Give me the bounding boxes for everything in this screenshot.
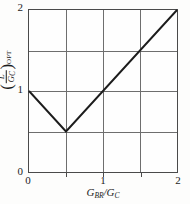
chart-figure: 0 1 2 2 1 0 GBR/GC (LGC)OPT [0, 0, 190, 204]
x-axis-label-sub2: C [115, 191, 120, 200]
xtick-mark-0.5 [66, 173, 67, 177]
x-axis-label: GBR/GC [28, 186, 178, 200]
plot-area [28, 9, 178, 173]
y-axis-label-outer-sub: OPT [5, 51, 13, 64]
y-axis-label: (LGC)OPT [0, 39, 17, 101]
x-axis-label-sub1: BR [94, 191, 103, 200]
xticklabel-1: 1 [93, 174, 113, 186]
xticklabel-2: 2 [168, 174, 188, 186]
y-axis-label-open-paren: ( [0, 84, 16, 90]
y-axis-label-denominator-sub: C [9, 71, 18, 76]
yticklabel-0: 0 [3, 165, 23, 177]
y-axis-label-close-paren: ) [0, 64, 16, 70]
y-axis-label-denominator: GC [7, 70, 17, 84]
data-curve [29, 10, 177, 172]
x-axis-label-symbol2: G [107, 186, 115, 198]
y-axis-label-fraction: LGC [0, 70, 17, 84]
xtick-mark-1.5 [141, 173, 142, 177]
yticklabel-2: 2 [3, 1, 23, 13]
y-axis-label-denominator-symbol: G [6, 76, 16, 83]
curve-polyline [29, 10, 177, 132]
